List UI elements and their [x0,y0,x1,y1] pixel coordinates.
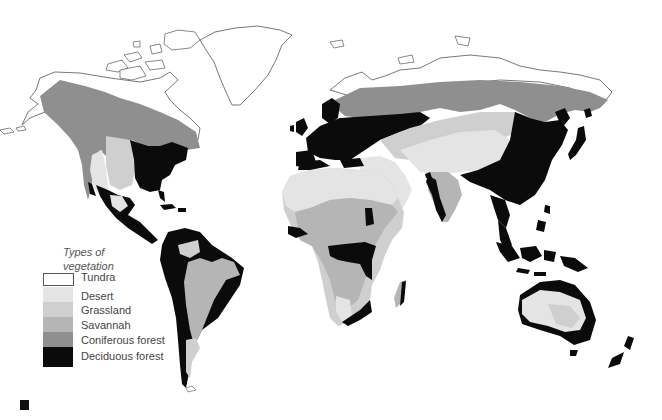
legend-label-desert: Desert [81,290,113,303]
vegetation-map-figure: Types of vegetation Tundra Desert Grassl… [0,0,662,420]
oceania [496,205,634,368]
legend-label-deciduous: Deciduous forest [81,350,164,363]
legend-swatch-desert [43,287,73,302]
legend-label-savannah: Savannah [81,319,131,332]
corner-marker-square [20,400,29,410]
legend-swatch-tundra [43,273,74,286]
south-america [160,228,244,392]
legend-label-grassland: Grassland [81,304,131,317]
north-america [0,30,200,244]
legend-swatch-coniferous [43,332,73,347]
legend-label-tundra: Tundra [81,271,115,284]
africa [282,158,406,326]
legend-title-line1: Types of [63,245,114,259]
deciduous-north-america [130,140,188,192]
legend-swatch-deciduous [43,347,73,367]
legend-label-coniferous: Coniferous forest [81,334,165,347]
legend-title: Types of vegetation [63,245,114,273]
legend-swatch-grassland [43,302,73,317]
legend-swatch-savannah [43,317,73,332]
greenland-tundra [200,26,292,105]
